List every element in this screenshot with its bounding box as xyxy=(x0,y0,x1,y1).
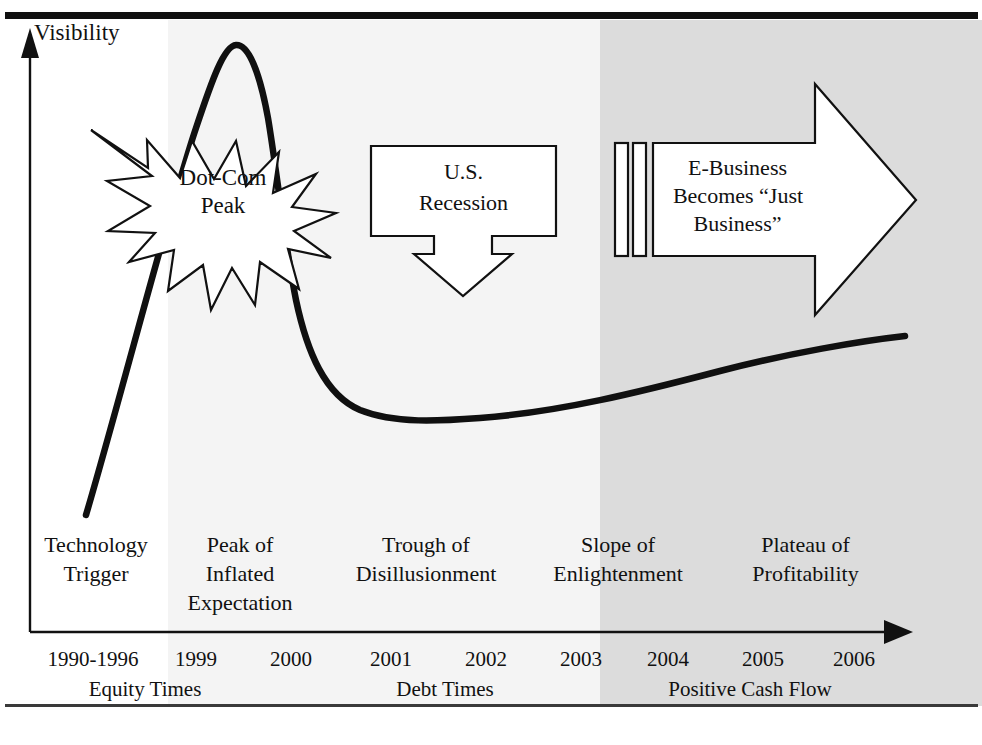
bottom-rule xyxy=(5,704,978,707)
dot-com-peak-label-line2: Peak xyxy=(148,193,298,219)
phase-label-slope-enlightenment-line2: Enlightenment xyxy=(528,562,708,587)
year-label-2002: 2002 xyxy=(450,648,522,672)
y-axis-label: Visibility xyxy=(34,20,194,46)
us-recession-label-line2: Recession xyxy=(371,190,556,215)
e-business-label-line2: Becomes “Just xyxy=(648,183,828,208)
band-dark-right xyxy=(600,20,982,706)
era-label-positive-cash-flow: Positive Cash Flow xyxy=(620,678,880,702)
era-label-debt-times: Debt Times xyxy=(355,678,535,702)
dot-com-peak-label-line1: Dot-Com xyxy=(148,165,298,191)
phase-label-plateau-profitability-line1: Plateau of xyxy=(718,533,893,558)
phase-label-plateau-profitability-line2: Profitability xyxy=(718,562,893,587)
figure-canvas xyxy=(0,0,982,745)
phase-label-peak-inflated-line2: Inflated xyxy=(170,562,310,587)
phase-label-technology-trigger-line1: Technology xyxy=(30,533,162,558)
phase-label-slope-enlightenment-line1: Slope of xyxy=(528,533,708,558)
top-rule xyxy=(5,12,978,19)
e-business-label-line3: Business” xyxy=(655,211,820,236)
year-label-2006: 2006 xyxy=(818,648,890,672)
phase-label-trough-disillusionment-line2: Disillusionment xyxy=(330,562,522,587)
us-recession-label-line1: U.S. xyxy=(371,159,556,184)
year-label-2000: 2000 xyxy=(255,648,327,672)
phase-label-peak-inflated-line1: Peak of xyxy=(170,533,310,558)
year-label-1999: 1999 xyxy=(160,648,232,672)
phase-label-technology-trigger-line2: Trigger xyxy=(30,562,162,587)
phase-label-trough-disillusionment-line1: Trough of xyxy=(330,533,522,558)
band-white-left xyxy=(0,20,168,706)
phase-label-peak-inflated-line3: Expectation xyxy=(170,591,310,616)
year-label-2001: 2001 xyxy=(355,648,427,672)
e-business-bar-outer xyxy=(615,143,628,256)
e-business-bar-inner xyxy=(633,143,646,256)
year-label-2005: 2005 xyxy=(727,648,799,672)
year-label-1990-1996: 1990-1996 xyxy=(28,648,158,672)
year-label-2004: 2004 xyxy=(632,648,704,672)
e-business-label-line1: E-Business xyxy=(655,155,820,180)
era-label-equity-times: Equity Times xyxy=(55,678,235,702)
hype-cycle-figure: Visibility Dot-Com Peak U.S. Recession E… xyxy=(0,0,982,745)
year-label-2003: 2003 xyxy=(545,648,617,672)
